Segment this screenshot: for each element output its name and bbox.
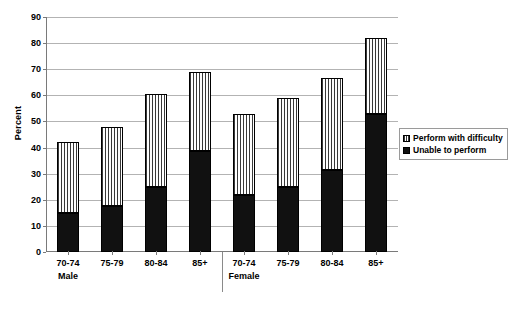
bar [321, 17, 343, 252]
legend-item-label: Perform with difficulty [413, 132, 503, 144]
x-tick-mark [288, 251, 289, 255]
bar-segment-perform-with-difficulty [321, 78, 343, 169]
y-tick-label: 30 [31, 169, 41, 179]
bar [233, 17, 255, 252]
y-tick-label: 90 [31, 12, 41, 22]
bar-segment-unable-to-perform [321, 170, 343, 252]
bar-segment-perform-with-difficulty [57, 142, 79, 213]
bar-segment-perform-with-difficulty [101, 127, 123, 207]
y-tick-label: 80 [31, 38, 41, 48]
bar [57, 17, 79, 252]
y-tick-label: 50 [31, 116, 41, 126]
bar [189, 17, 211, 252]
bar-segment-unable-to-perform [189, 151, 211, 252]
y-tick-label: 70 [31, 64, 41, 74]
bar [145, 17, 167, 252]
x-tick-mark [376, 251, 377, 255]
legend-item: Unable to perform [403, 144, 503, 156]
x-tick-mark [200, 251, 201, 255]
bar [365, 17, 387, 252]
x-tick-mark [112, 251, 113, 255]
y-tick-label: 0 [36, 247, 41, 257]
x-tick-mark [68, 251, 69, 255]
x-tick-mark [244, 251, 245, 255]
chart-legend: Perform with difficulty Unable to perfor… [399, 128, 508, 160]
bar-segment-perform-with-difficulty [277, 98, 299, 187]
plot-area: 0102030405060708090 [46, 17, 398, 252]
bar-segment-perform-with-difficulty [365, 38, 387, 114]
group-label: Male [38, 271, 98, 281]
bar [277, 17, 299, 252]
bar-segment-unable-to-perform [233, 195, 255, 252]
x-axis-labels: 70-7475-7980-8485+70-7475-7980-8485+Male… [46, 255, 398, 301]
bar-segment-unable-to-perform [57, 213, 79, 252]
x-tick-mark [156, 251, 157, 255]
bar-segment-unable-to-perform [101, 206, 123, 252]
y-tick-label: 10 [31, 221, 41, 231]
legend-item-label: Unable to perform [413, 144, 486, 156]
bar-segment-unable-to-perform [277, 187, 299, 252]
legend-swatch-solid-icon [403, 147, 410, 154]
y-tick-label: 20 [31, 195, 41, 205]
group-divider [222, 252, 223, 292]
bars-layer [46, 17, 398, 252]
bar-segment-unable-to-perform [365, 114, 387, 252]
bar [101, 17, 123, 252]
y-axis-title: Percent [13, 83, 23, 163]
y-tick-mark [43, 252, 46, 253]
legend-swatch-hatch-icon [403, 135, 410, 142]
y-tick-label: 60 [31, 90, 41, 100]
x-tick-mark [332, 251, 333, 255]
bar-segment-perform-with-difficulty [233, 114, 255, 195]
group-label: Female [214, 271, 274, 281]
y-tick-label: 40 [31, 143, 41, 153]
stacked-bar-chart: Percent 0102030405060708090 70-7475-7980… [0, 0, 512, 310]
bar-segment-perform-with-difficulty [145, 94, 167, 187]
bar-segment-perform-with-difficulty [189, 72, 211, 152]
bar-segment-unable-to-perform [145, 187, 167, 252]
x-tick-label: 85+ [346, 258, 406, 268]
legend-item: Perform with difficulty [403, 132, 503, 144]
